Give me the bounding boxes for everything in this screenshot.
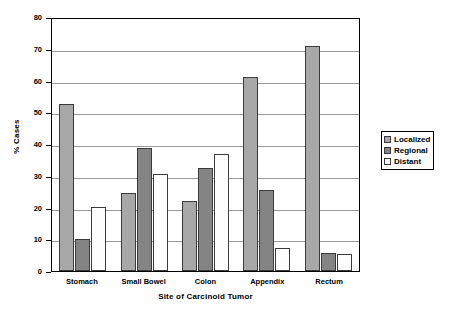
y-axis-tick-label: 0 [38,268,42,276]
bar [182,201,197,271]
bar-group [236,19,297,271]
bar-chart: % Cases 01020304050607080 StomachSmall B… [0,0,457,320]
legend-item-label: Localized [394,136,430,144]
plot-area [51,18,360,272]
y-axis-tick-label: 30 [34,173,42,181]
bar [275,248,290,271]
bar-group [298,19,359,271]
bar-group [52,19,113,271]
bar-group [113,19,174,271]
bar [91,207,106,271]
x-axis-tick-label: Small Bowel [113,277,175,286]
y-axis-tick-label: 70 [34,46,42,54]
y-axis-tick-label: 40 [34,141,42,149]
legend-item: Regional [384,145,430,156]
x-axis-tick-label: Appendix [236,277,298,286]
bar [321,253,336,271]
legend-item: Localized [384,134,430,145]
y-axis-tick-label: 60 [34,78,42,86]
x-axis-title: Site of Carcinoid Tumor [51,292,360,301]
bar [137,148,152,271]
bar [337,254,352,271]
legend-item-label: Regional [394,147,428,155]
legend-swatch-icon [384,147,391,154]
y-axis-tick-label: 80 [34,14,42,22]
legend-swatch-icon [384,136,391,143]
bar [153,174,168,271]
legend-item: Distant [384,156,430,167]
bar [121,193,136,271]
x-axis-tick-labels: StomachSmall BowelColonAppendixRectum [51,277,360,286]
bar [243,77,258,271]
bar [214,154,229,271]
bar [259,190,274,271]
bar [198,168,213,271]
y-axis-tick-mark [46,272,51,273]
x-axis-tick-label: Stomach [51,277,113,286]
bar-groups [52,19,359,271]
bar [59,104,74,271]
bar [305,46,320,271]
bar [75,239,90,271]
y-axis-tick-label: 20 [34,205,42,213]
legend-swatch-icon [384,158,391,165]
x-axis-tick-label: Rectum [298,277,360,286]
y-axis-ticks: 01020304050607080 [0,18,51,272]
y-axis-tick-label: 50 [34,110,42,118]
y-axis-tick-label: 10 [34,237,42,245]
chart-legend: LocalizedRegionalDistant [381,131,434,170]
legend-item-label: Distant [394,158,421,166]
bar-group [175,19,236,271]
x-axis-tick-label: Colon [175,277,237,286]
